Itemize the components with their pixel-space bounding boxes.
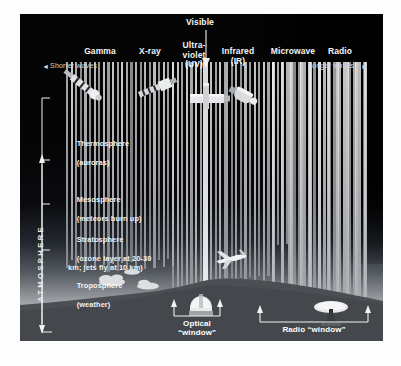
longer-waves-arrow-icon: ► xyxy=(361,63,368,71)
band-label-radio: Radio xyxy=(316,47,364,57)
absorption-bar xyxy=(163,62,165,267)
absorption-bar xyxy=(258,62,260,276)
layer-name-mesosphere: Mesosphere xyxy=(77,195,121,204)
optical-window-column xyxy=(203,62,208,306)
absorption-bar xyxy=(235,62,237,286)
absorption-bar xyxy=(254,62,256,284)
absorption-bar xyxy=(267,62,269,276)
absorption-bar xyxy=(195,62,197,303)
atmosphere-axis-label: ATMOSPHERE xyxy=(36,225,45,302)
absorption-bar xyxy=(167,62,169,259)
shorter-waves-arrow-icon: ◄ xyxy=(42,63,49,71)
visible-label: Visible xyxy=(186,18,214,28)
absorption-bar xyxy=(181,62,183,296)
absorption-bar xyxy=(186,62,188,304)
band-label-gamma: Gamma xyxy=(72,47,128,57)
absorption-bar xyxy=(172,62,174,297)
absorption-bar xyxy=(244,62,246,285)
layer-detail-stratosphere: (ozone layer at 20-30 km; jets fly at 10… xyxy=(68,254,151,272)
absorption-bar xyxy=(190,62,192,296)
absorption-bar xyxy=(263,62,265,284)
absorption-bar xyxy=(215,62,217,302)
layer-detail-thermosphere: (auroras) xyxy=(77,158,110,167)
layer-label-troposphere: Troposphere (weather) xyxy=(68,272,123,318)
absorption-bar xyxy=(210,62,212,294)
layer-detail-troposphere: (weather) xyxy=(77,300,111,309)
layer-name-thermosphere: Thermosphere xyxy=(77,139,130,148)
shorter-waves-label: Shorter waves xyxy=(50,62,97,70)
optical-window-label: Optical “window” xyxy=(166,320,228,338)
layer-label-thermosphere: Thermosphere (auroras) xyxy=(68,130,129,176)
atmospheric-opacity-diagram: Visible Gamma X-ray Ultra- violet (UV) I… xyxy=(20,14,383,341)
band-label-microwave: Microwave xyxy=(262,47,324,57)
absorption-bar xyxy=(177,62,179,304)
band-label-infrared: Infrared (IR) xyxy=(210,47,266,66)
absorption-bar xyxy=(200,62,202,295)
absorption-bar xyxy=(231,62,233,279)
absorption-bar xyxy=(158,62,160,260)
absorption-bar xyxy=(240,62,242,278)
layer-name-stratosphere: Stratosphere xyxy=(77,235,124,244)
absorption-bar xyxy=(153,62,155,268)
absorption-bar xyxy=(249,62,251,277)
absorption-bar xyxy=(277,62,279,245)
layer-detail-mesosphere: (meteors burn up) xyxy=(77,214,142,223)
absorption-bar xyxy=(226,62,228,287)
radio-window-label: Radio “window” xyxy=(272,326,356,335)
absorption-bar xyxy=(219,62,221,294)
layer-name-troposphere: Troposphere xyxy=(77,281,123,290)
longer-waves-label: Longer waves xyxy=(308,62,354,70)
